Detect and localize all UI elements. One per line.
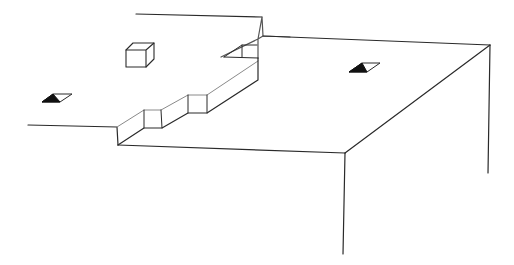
lower-platform-front-edge	[118, 145, 345, 153]
small-cube	[126, 43, 154, 67]
upper-platform-back-edge	[136, 14, 262, 17]
right-platform-back-edge	[263, 36, 490, 45]
diagram-canvas	[0, 0, 514, 265]
lower-platform-right-edge	[345, 45, 490, 153]
vertical-corner-edge-front	[343, 153, 345, 254]
vertical-corner-edge-right	[488, 45, 490, 173]
opening-left	[42, 94, 72, 102]
opening-right	[349, 63, 380, 72]
step-verticals	[144, 95, 207, 128]
platform-drawing	[0, 0, 514, 265]
upper-platform-left-edge	[28, 125, 118, 145]
